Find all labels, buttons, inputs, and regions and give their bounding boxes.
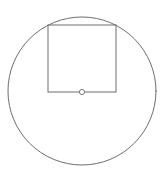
geometry-figure bbox=[0, 0, 165, 175]
center-point-marker bbox=[79, 89, 84, 94]
geometry-canvas bbox=[0, 0, 165, 175]
figure-background bbox=[0, 0, 165, 175]
